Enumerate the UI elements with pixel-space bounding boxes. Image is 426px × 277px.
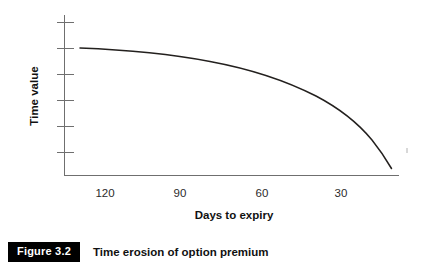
chart-plot-area: 120 90 60 30 Days to expiry Time value	[0, 0, 426, 232]
x-tick-label-60: 60	[256, 187, 269, 199]
figure-caption-bar: Figure 3.2 Time erosion of option premiu…	[0, 236, 426, 268]
x-tick-labels: 120 90 60 30	[95, 187, 347, 199]
time-value-curve	[80, 48, 392, 169]
x-tick-label-30: 30	[335, 187, 348, 199]
page-artifact-speck	[406, 148, 408, 153]
x-axis-title: Days to expiry	[195, 209, 274, 221]
figure-number-tag: Figure 3.2	[8, 242, 80, 261]
figure-caption-text: Time erosion of option premium	[93, 246, 269, 258]
time-decay-chart: 120 90 60 30 Days to expiry Time value	[0, 0, 426, 232]
y-axis-title: Time value	[28, 66, 40, 125]
x-tick-label-90: 90	[174, 187, 187, 199]
x-tick-label-120: 120	[95, 187, 114, 199]
figure-container: 120 90 60 30 Days to expiry Time value F…	[0, 0, 426, 277]
y-axis-group	[57, 15, 74, 176]
